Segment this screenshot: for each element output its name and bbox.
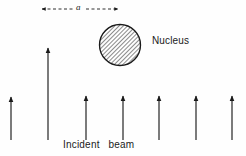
nucleus-circle	[100, 25, 141, 66]
scattering-diagram: a Nucleus Incident beam	[0, 0, 246, 156]
impact-parameter-label: a	[76, 3, 81, 12]
nucleus	[100, 25, 141, 66]
diagram-canvas	[0, 0, 246, 156]
incident-beam-label: Incident beam	[63, 140, 134, 150]
nucleus-label: Nucleus	[152, 36, 189, 46]
